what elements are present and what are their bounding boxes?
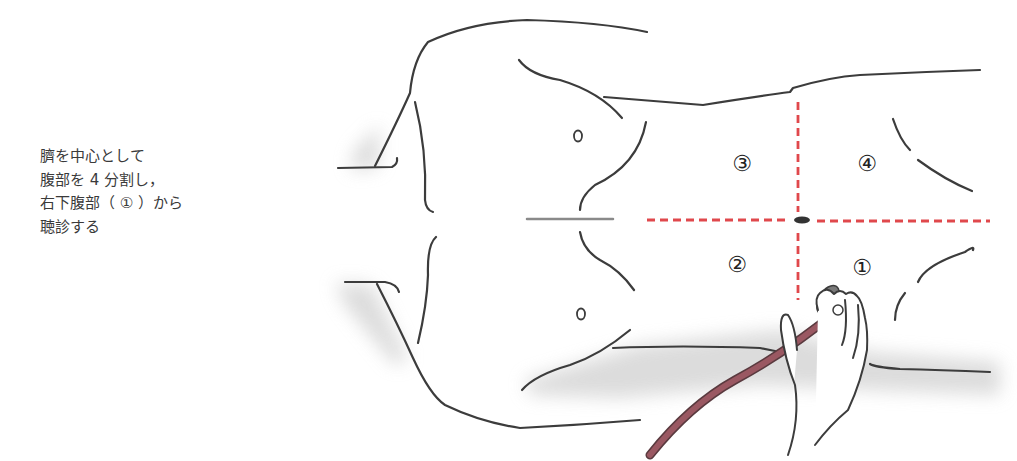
upper-right-rib-line — [893, 119, 910, 150]
lower-armpit-line — [418, 237, 436, 343]
lower-left-rib-line — [580, 232, 634, 290]
lower-right-flank-line — [895, 293, 905, 320]
lower-right-rib-line — [918, 248, 973, 282]
upper-right-flank-line — [918, 160, 972, 191]
lower-nipple — [577, 309, 585, 320]
upper-armpit-line — [415, 102, 433, 212]
upper-nipple — [574, 131, 582, 142]
quadrant-label-1: ① — [852, 255, 872, 280]
quadrant-label-3: ③ — [732, 151, 752, 176]
quadrant-label-2: ② — [727, 252, 747, 277]
quadrant-label-4: ④ — [857, 151, 877, 176]
lower-shoulder-outline — [377, 284, 640, 428]
examiner-hand — [781, 290, 867, 455]
navel — [794, 217, 810, 224]
upper-body-outline — [604, 70, 980, 105]
quadrant-dividers — [647, 102, 990, 300]
abdominal-auscultation-illustration: ③ ④ ② ① — [0, 0, 1017, 461]
upper-chest-line — [519, 60, 622, 118]
upper-shoulder-outline — [375, 20, 647, 166]
body-shadow — [335, 125, 1000, 398]
upper-left-rib-line — [580, 122, 646, 210]
